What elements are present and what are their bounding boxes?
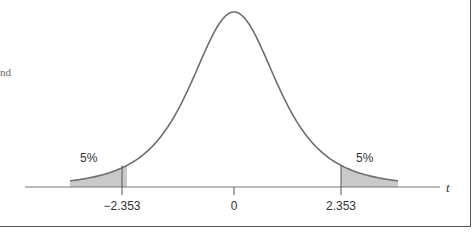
- tick-label-zero: 0: [231, 199, 238, 213]
- left-tail-label: 5%: [80, 151, 98, 165]
- right-tail-label: 5%: [356, 151, 374, 165]
- tick-label-left: −2.353: [103, 199, 140, 213]
- t-distribution-chart: 5% 5% −2.353 0 2.353 t: [0, 0, 472, 234]
- axis-variable-label: t: [446, 180, 450, 195]
- tick-label-right: 2.353: [326, 199, 356, 213]
- density-curve: [70, 12, 398, 181]
